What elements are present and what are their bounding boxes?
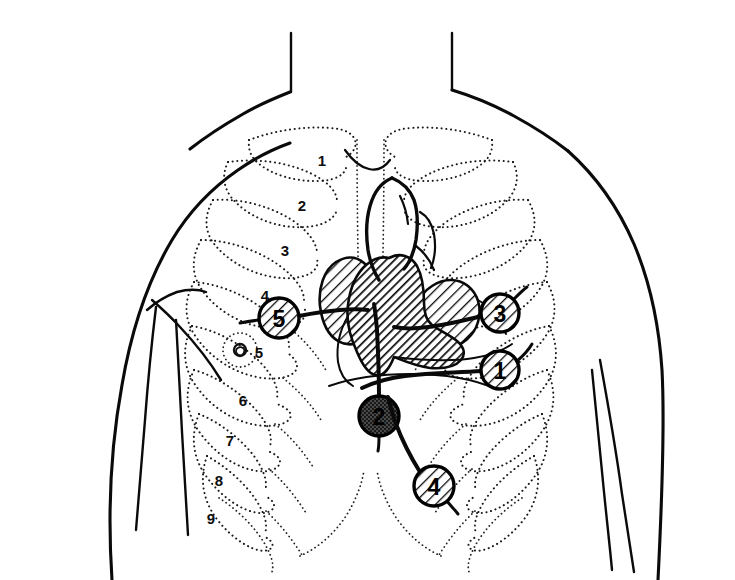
costal-cartilage-right-b — [420, 378, 458, 420]
lead-tail-site-2 — [378, 436, 379, 451]
marker-label-2: 2 — [373, 404, 386, 430]
rib-7-left-lower — [188, 370, 280, 471]
thoracic-organs — [320, 150, 512, 389]
lead-tail-site-5 — [240, 320, 259, 323]
left-shoulder-slope — [190, 92, 290, 149]
rib-label-3: 3 — [281, 242, 289, 259]
rib-6-left — [192, 326, 277, 398]
rib-1-left-lower — [249, 140, 346, 181]
nipple-swirl — [236, 347, 244, 355]
marker-label-5: 5 — [273, 306, 286, 332]
right-lateral-line — [592, 370, 612, 570]
rib-9-right — [475, 456, 534, 533]
rib-9-right-lower — [468, 456, 538, 551]
trachea-line — [400, 196, 408, 224]
rib-label-9: 9 — [207, 510, 215, 527]
rib-6-left-lower — [185, 326, 291, 426]
diagram-canvas: 5 1 2 3 4 6 7 8 9 1 3 — [0, 0, 735, 580]
rib-label-2: 2 — [298, 197, 306, 214]
lead-line-site-4 — [388, 397, 420, 472]
marker-label-3: 3 — [494, 301, 507, 327]
rib-label-8: 8 — [215, 472, 223, 489]
rib-9-left-lower — [203, 456, 273, 551]
costal-margin-left — [300, 470, 364, 556]
costal-cartilage-left-d — [269, 469, 306, 513]
rib-9-left — [207, 456, 266, 533]
rib-label-1: 1 — [318, 152, 326, 169]
left-flank-line — [136, 307, 156, 530]
nipple-marker-group: 5 — [223, 333, 263, 367]
right-shoulder-slope — [452, 90, 568, 151]
costal-cartilage-left-b — [283, 378, 321, 420]
right-arm-outline — [568, 151, 663, 580]
left-lateral-line — [176, 320, 188, 535]
rib-1-right-lower — [395, 140, 492, 181]
right-flank-line — [600, 360, 634, 572]
marker-label-1: 1 — [494, 358, 507, 384]
marker-label-4: 4 — [428, 474, 441, 500]
rib-2-left-lower — [224, 162, 337, 227]
anatomy-illustration: 5 1 2 3 4 6 7 8 9 1 3 — [0, 0, 735, 580]
nipple-rib-label: 5 — [255, 344, 263, 361]
rib-3-right-lower — [423, 200, 534, 278]
rib-2-right-lower — [404, 162, 517, 227]
rib-label-6: 6 — [239, 392, 247, 409]
rib-1-right — [385, 128, 492, 158]
lead-tail-site-3 — [514, 287, 527, 299]
rib-2-right — [404, 161, 513, 201]
rib-label-7: 7 — [226, 432, 234, 449]
